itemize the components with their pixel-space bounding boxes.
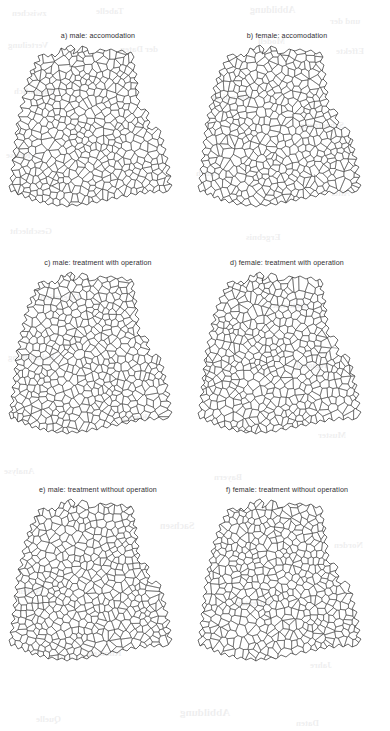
district-cell (134, 162, 143, 169)
district-cell (123, 598, 131, 608)
district-cell (96, 142, 102, 152)
district-cell (339, 388, 348, 397)
district-cell (45, 564, 52, 572)
district-cell (249, 417, 259, 425)
district-cell (282, 194, 291, 203)
district-cell (323, 413, 347, 485)
district-cell (110, 110, 119, 118)
district-cell (128, 43, 193, 63)
district-cell (222, 574, 232, 584)
district-cell (248, 625, 261, 636)
district-cell (127, 564, 133, 571)
district-cell (321, 397, 331, 406)
district-cell (276, 195, 288, 233)
district-cell (15, 394, 26, 404)
district-cell (268, 43, 290, 51)
district-cell (342, 270, 382, 365)
district-cell (59, 117, 66, 123)
district-cell (293, 60, 301, 69)
district-cell (48, 140, 61, 151)
district-cell (248, 98, 258, 108)
district-cell (317, 330, 327, 338)
district-cell (109, 70, 117, 80)
district-cell (134, 540, 168, 561)
district-cell (241, 568, 249, 575)
district-cell (3, 270, 45, 291)
district-cell (139, 582, 146, 590)
district-cell (333, 610, 340, 619)
district-cell (273, 355, 280, 362)
district-cell (59, 70, 66, 80)
district-cell (291, 646, 309, 696)
district-cell (288, 68, 295, 77)
district-cell (236, 526, 246, 538)
district-cell (3, 581, 25, 597)
district-cell (137, 404, 145, 414)
district-cell (70, 129, 77, 135)
district-cell (289, 395, 298, 405)
district-cell (316, 376, 324, 383)
district-cell (129, 62, 193, 78)
district-cell (245, 176, 254, 186)
district-cell (269, 57, 279, 65)
district-cell (288, 98, 298, 107)
district-cell (276, 105, 282, 115)
district-cell (229, 524, 239, 534)
district-cell (131, 117, 138, 126)
district-cell (158, 78, 193, 145)
district-cell (286, 183, 295, 191)
district-cell (45, 576, 55, 583)
district-cell (330, 331, 354, 359)
district-cell (233, 551, 240, 557)
district-cell (120, 134, 127, 142)
district-cell (60, 78, 70, 85)
district-cell (94, 641, 107, 653)
district-cell (80, 561, 87, 570)
district-cell (63, 413, 70, 421)
district-cell (304, 533, 313, 542)
district-cell (131, 140, 141, 151)
district-cell (142, 569, 160, 578)
district-cell (54, 400, 64, 406)
district-cell (89, 185, 97, 191)
district-cell (244, 334, 253, 340)
district-cell (275, 590, 281, 596)
district-cell (129, 163, 135, 171)
district-cell (299, 382, 306, 391)
district-cell (192, 589, 207, 618)
district-cell (352, 364, 382, 391)
district-cell (199, 365, 211, 371)
district-cell (292, 162, 299, 170)
district-cell (285, 359, 296, 368)
district-cell (264, 407, 275, 413)
district-cell (282, 117, 294, 126)
district-cell (33, 356, 43, 366)
district-cell (77, 376, 85, 383)
district-cell (52, 622, 61, 631)
district-cell (65, 52, 72, 60)
district-cell (62, 184, 70, 193)
district-cell (242, 649, 249, 667)
district-cell (69, 112, 79, 119)
district-cell (192, 326, 211, 356)
district-cell (72, 90, 80, 97)
district-cell (278, 54, 286, 66)
district-cell (348, 571, 382, 610)
district-cell (3, 501, 33, 539)
panel-e: e) male: treatment without operation (3, 486, 193, 716)
district-cell (234, 76, 243, 81)
district-cell (128, 328, 134, 336)
district-cell (192, 270, 235, 287)
district-cell (283, 337, 291, 345)
district-cell (120, 287, 127, 293)
district-cell (43, 305, 51, 314)
district-cell (288, 196, 329, 258)
district-cell (54, 130, 64, 140)
district-cell (208, 620, 218, 628)
district-cell (40, 162, 49, 171)
district-cell (3, 334, 27, 349)
district-cell (304, 316, 313, 326)
district-cell (263, 575, 270, 583)
district-cell (240, 68, 250, 76)
district-cell (324, 627, 335, 635)
